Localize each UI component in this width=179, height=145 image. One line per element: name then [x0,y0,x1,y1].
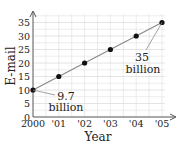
x-tick-label: '04 [129,118,144,129]
y-tick-label: 20 [18,58,30,69]
y-tick-label: 30 [18,31,30,42]
x-tick-label: '05 [155,118,170,129]
x-tick-label: '02 [77,118,92,129]
data-point [134,33,139,38]
y-tick-label: 15 [18,71,30,82]
y-tick-label: 35 [18,17,30,28]
annotation-leader [33,90,55,95]
y-axis-title: E-mail [4,46,18,85]
data-point [56,74,61,79]
data-point [108,47,113,52]
x-tick-label: '01 [51,118,66,129]
x-axis-title: Year [84,130,112,144]
x-tick-label: 2000 [21,118,45,129]
x-tick-label: '03 [103,118,118,129]
y-tick-labels: 05101520253035 [18,17,30,123]
y-tick-label: 25 [18,44,30,55]
data-point [82,60,87,65]
annotation-unit: billion [49,101,84,114]
y-tick-label: 10 [18,85,30,96]
email-line-chart: 05101520253035 2000'01'02'03'04'05 9.7bi… [0,0,179,145]
y-tick-label: 5 [24,98,30,109]
annotation-unit: billion [126,63,161,76]
x-tick-labels: 2000'01'02'03'04'05 [21,118,169,129]
